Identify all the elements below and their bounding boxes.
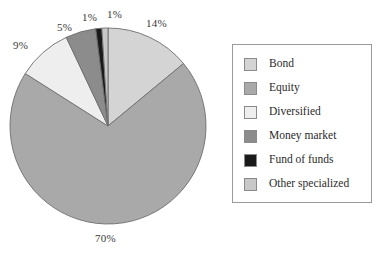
legend-label-fund-of-funds: Fund of funds [269, 154, 334, 166]
slice-label-money-market: 5% [57, 22, 72, 33]
legend-swatch-bond [244, 58, 257, 71]
pie-slice-group [10, 28, 206, 224]
legend-item-equity: Equity [233, 76, 371, 100]
legend-swatch-equity [244, 82, 257, 95]
chart-legend: Bond Equity Diversified Money market Fun… [232, 44, 372, 203]
slice-label-diversified: 9% [13, 40, 28, 51]
slice-label-bond: 14% [146, 18, 167, 29]
slice-label-fund-of-funds: 1% [82, 12, 97, 23]
legend-swatch-fund-of-funds [244, 154, 257, 167]
slice-label-other-specialized: 1% [107, 9, 122, 20]
legend-label-equity: Equity [269, 82, 300, 94]
legend-label-other-specialized: Other specialized [269, 178, 349, 190]
legend-item-money-market: Money market [233, 124, 371, 148]
legend-item-diversified: Diversified [233, 100, 371, 124]
legend-item-bond: Bond [233, 52, 371, 76]
legend-swatch-money-market [244, 130, 257, 143]
legend-swatch-other-specialized [244, 178, 257, 191]
legend-label-diversified: Diversified [269, 106, 321, 118]
legend-item-other-specialized: Other specialized [233, 172, 371, 196]
pie-chart: 14% 70% 9% 5% 1% 1% [0, 0, 230, 255]
legend-label-bond: Bond [269, 58, 294, 70]
legend-item-fund-of-funds: Fund of funds [233, 148, 371, 172]
slice-label-equity: 70% [95, 233, 116, 244]
legend-swatch-diversified [244, 106, 257, 119]
legend-label-money-market: Money market [269, 130, 336, 142]
pie-chart-canvas [0, 0, 230, 255]
